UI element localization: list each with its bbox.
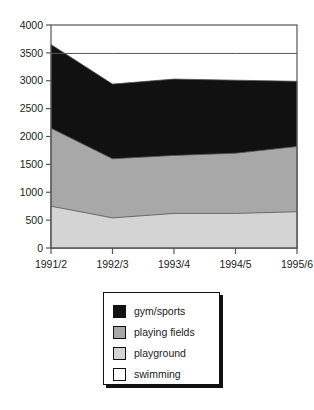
x-tick-label: 1995/6 (281, 258, 313, 270)
y-tick-label: 2000 (20, 130, 44, 142)
y-tick-label: 0 (37, 242, 43, 254)
y-tick-label: 500 (25, 214, 43, 226)
legend-swatch-swimming (113, 368, 126, 381)
series-bands (51, 45, 297, 248)
legend-label: gym/sports (134, 305, 185, 318)
legend-item: playground (113, 343, 219, 363)
x-tick-label: 1994/5 (219, 258, 251, 270)
legend-label: playground (134, 347, 186, 360)
legend-label: swimming (134, 368, 181, 381)
legend-swatch-playing-fields (113, 326, 126, 339)
chart-canvas: 05001000150020002500300035004000 1991/21… (0, 0, 314, 280)
legend-item: swimming (113, 364, 219, 384)
legend-label: playing fields (134, 326, 195, 339)
legend-swatch-playground (113, 347, 126, 360)
chart-legend: gym/sportsplaying fieldsplaygroundswimmi… (103, 292, 220, 385)
x-tick-label: 1993/4 (158, 258, 190, 270)
plot-area: 05001000150020002500300035004000 1991/21… (0, 0, 314, 280)
y-tick-label: 3500 (20, 47, 44, 59)
y-tick-label: 4000 (20, 19, 44, 31)
y-tick-label: 2500 (20, 102, 44, 114)
legend-item: gym/sports (113, 301, 219, 321)
x-tick-label: 1991/2 (35, 258, 67, 270)
y-axis: 05001000150020002500300035004000 (20, 19, 51, 254)
y-tick-label: 3000 (20, 74, 44, 86)
legend-item: playing fields (113, 322, 219, 342)
stacked-area-chart: 05001000150020002500300035004000 1991/21… (0, 0, 314, 410)
y-tick-label: 1000 (20, 186, 44, 198)
legend-item-list: gym/sportsplaying fieldsplaygroundswimmi… (104, 293, 219, 384)
legend-swatch-gym-sports (113, 305, 126, 318)
y-tick-label: 1500 (20, 158, 44, 170)
x-axis: 1991/21992/31993/41994/51995/6 (35, 248, 313, 270)
x-tick-label: 1992/3 (96, 258, 128, 270)
